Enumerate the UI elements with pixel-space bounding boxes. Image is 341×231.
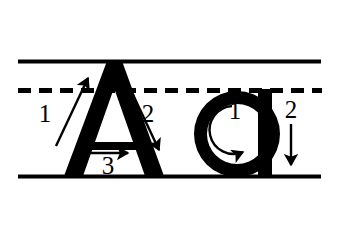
handwriting-worksheet: 1 2 3 1 2 [0, 0, 341, 231]
stroke-number-uppercase-a-1: 1 [39, 100, 52, 127]
stroke-number-uppercase-a-3: 3 [102, 152, 115, 179]
uppercase-a-crossbar [86, 142, 143, 150]
worksheet-canvas: 1 2 3 1 2 [0, 0, 341, 231]
stroke-number-lowercase-a-2: 2 [285, 96, 298, 123]
lowercase-a-stem [258, 89, 272, 177]
stroke-number-uppercase-a-2: 2 [142, 100, 155, 127]
stroke-number-lowercase-a-1: 1 [229, 97, 242, 124]
